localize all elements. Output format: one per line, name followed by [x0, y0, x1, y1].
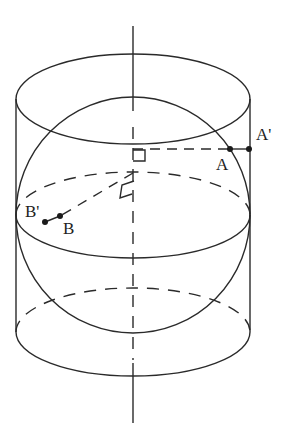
label-A: A	[216, 155, 229, 174]
sphere-in-cylinder-diagram: A' A B' B	[0, 0, 288, 441]
label-B-prime: B'	[25, 202, 39, 221]
projection-line-B	[60, 173, 133, 216]
point-A	[227, 146, 233, 152]
label-A-prime: A'	[256, 125, 271, 144]
label-B: B	[63, 219, 74, 238]
point-B-prime	[42, 219, 48, 225]
right-angle-marker-top	[133, 150, 145, 161]
right-angle-marker-lower	[120, 181, 134, 198]
point-A-prime	[246, 146, 252, 152]
